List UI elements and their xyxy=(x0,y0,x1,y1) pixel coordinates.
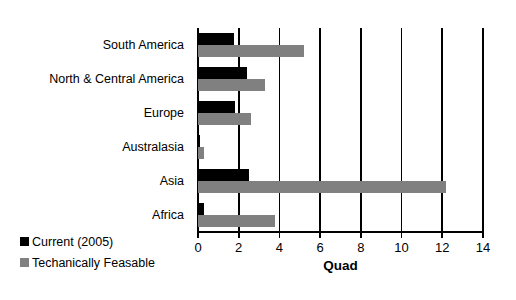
bar-feasable xyxy=(198,45,304,57)
legend-item: Current (2005) xyxy=(20,231,195,252)
x-axis-tick-label: 12 xyxy=(427,240,457,255)
x-axis-tick xyxy=(279,232,281,238)
gridline xyxy=(482,28,484,232)
x-axis-tick-label: 6 xyxy=(305,240,335,255)
x-axis-tick xyxy=(197,232,199,238)
gridline xyxy=(319,28,321,232)
black-square-icon xyxy=(20,237,29,246)
category-axis-labels: South AmericaNorth & Central AmericaEuro… xyxy=(0,28,190,232)
bar-current xyxy=(198,67,247,79)
x-axis-title: Quad xyxy=(198,258,483,273)
chart-legend: Current (2005)Techanically Feasable xyxy=(20,231,195,273)
bar-current xyxy=(198,169,249,181)
x-axis-line xyxy=(197,231,483,233)
x-axis-tick xyxy=(482,232,484,238)
gray-square-icon xyxy=(20,258,29,267)
x-axis-tick-label: 4 xyxy=(264,240,294,255)
category-label: Australasia xyxy=(0,140,184,154)
plot-area: 02468101214 xyxy=(198,28,483,232)
category-label: Asia xyxy=(0,174,184,188)
horizontal-bar-chart: South AmericaNorth & Central AmericaEuro… xyxy=(0,0,516,300)
x-axis-tick-label: 10 xyxy=(387,240,417,255)
bar-feasable xyxy=(198,79,265,91)
category-label: South America xyxy=(0,38,184,52)
legend-item: Techanically Feasable xyxy=(20,252,195,273)
gridline xyxy=(401,28,403,232)
gridline xyxy=(360,28,362,232)
bar-feasable xyxy=(198,181,446,193)
category-label: North & Central America xyxy=(0,72,184,86)
bar-current xyxy=(198,33,234,45)
x-axis-tick xyxy=(401,232,403,238)
bar-feasable xyxy=(198,147,204,159)
x-axis-tick xyxy=(360,232,362,238)
gridline xyxy=(441,28,443,232)
bar-feasable xyxy=(198,215,275,227)
gridline xyxy=(279,28,281,232)
y-axis-line xyxy=(197,28,199,232)
x-axis-tick-label: 8 xyxy=(346,240,376,255)
gridline xyxy=(238,28,240,232)
x-axis-tick xyxy=(319,232,321,238)
legend-label: Current (2005) xyxy=(32,235,113,249)
bar-current xyxy=(198,135,200,147)
bar-feasable xyxy=(198,113,251,125)
x-axis-tick xyxy=(441,232,443,238)
x-axis-tick-label: 2 xyxy=(224,240,254,255)
x-axis-tick xyxy=(238,232,240,238)
bar-current xyxy=(198,203,204,215)
category-label: Africa xyxy=(0,208,184,222)
x-axis-tick-label: 14 xyxy=(468,240,498,255)
bar-current xyxy=(198,101,235,113)
category-label: Europe xyxy=(0,106,184,120)
legend-label: Techanically Feasable xyxy=(32,256,155,270)
